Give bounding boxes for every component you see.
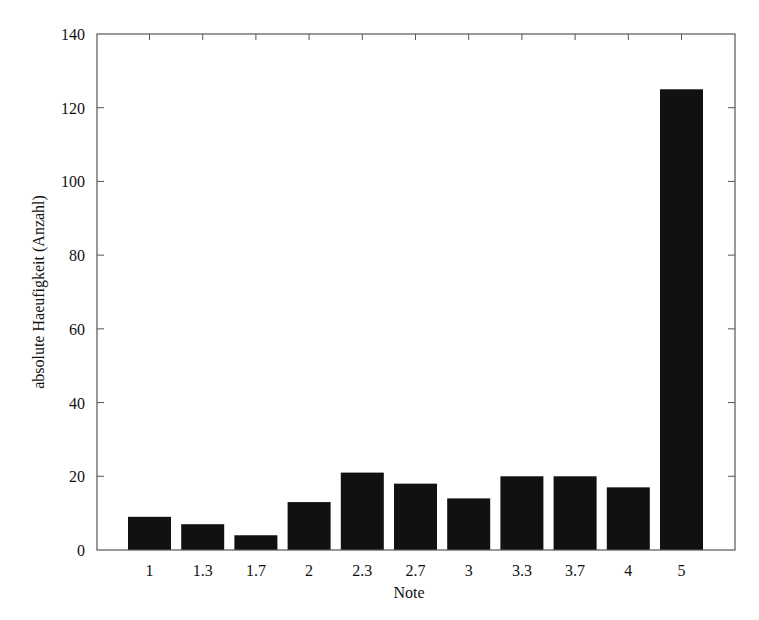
x-tick-label: 2 <box>305 562 313 579</box>
bar-1.3 <box>181 524 224 550</box>
x-tick-label: 1.7 <box>246 562 266 579</box>
bar-1 <box>128 517 171 550</box>
bar-4 <box>607 487 650 550</box>
x-tick-label: 2.3 <box>352 562 372 579</box>
y-tick-label: 60 <box>69 321 85 338</box>
x-tick-label: 5 <box>678 562 686 579</box>
x-tick-label: 3.7 <box>565 562 585 579</box>
bar-1.7 <box>234 535 277 550</box>
bar-3 <box>447 498 490 550</box>
plot-frame <box>97 34 735 550</box>
x-tick-label: 2.7 <box>406 562 426 579</box>
bar-chart: 020406080100120140 11.31.722.32.733.33.7… <box>0 0 759 620</box>
y-tick-label: 140 <box>61 26 85 43</box>
bar-2 <box>288 502 331 550</box>
x-tick-label: 4 <box>624 562 632 579</box>
y-tick-label: 40 <box>69 395 85 412</box>
y-axis-ticks: 020406080100120140 <box>61 26 735 559</box>
y-tick-label: 120 <box>61 100 85 117</box>
bar-3.7 <box>554 476 597 550</box>
x-tick-label: 3.3 <box>512 562 532 579</box>
y-axis-title: absolute Haeufigkeit (Anzahl) <box>30 195 48 389</box>
bars <box>128 89 703 550</box>
y-tick-label: 80 <box>69 247 85 264</box>
x-tick-label: 1 <box>146 562 154 579</box>
x-axis-title: Note <box>393 584 424 601</box>
y-tick-label: 0 <box>77 542 85 559</box>
x-tick-label: 3 <box>465 562 473 579</box>
bar-2.3 <box>341 473 384 550</box>
bar-3.3 <box>500 476 543 550</box>
bar-2.7 <box>394 484 437 550</box>
bar-5 <box>660 89 703 550</box>
y-tick-label: 20 <box>69 468 85 485</box>
x-tick-label: 1.3 <box>193 562 213 579</box>
y-tick-label: 100 <box>61 173 85 190</box>
